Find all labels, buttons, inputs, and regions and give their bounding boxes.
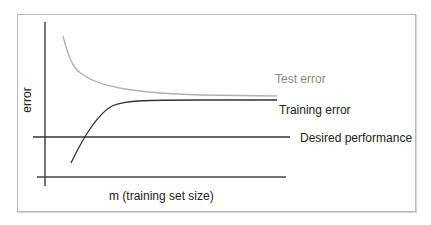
desired-performance-label: Desired performance xyxy=(300,131,412,145)
test-error-curve xyxy=(63,36,277,96)
training-error-label: Training error xyxy=(279,103,351,117)
learning-curve-plot xyxy=(0,0,431,225)
training-error-curve xyxy=(71,100,277,163)
test-error-label: Test error xyxy=(275,72,326,86)
x-axis-label: m (training set size) xyxy=(109,189,214,203)
y-axis-label: error xyxy=(20,87,34,112)
